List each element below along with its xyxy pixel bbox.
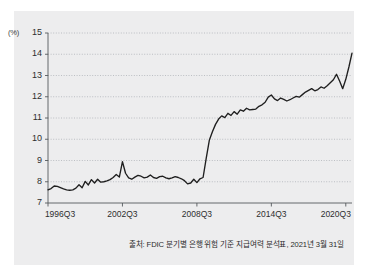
line-chart: [14, 11, 354, 265]
figure-container: (%) 151413121110987 1996Q32002Q32008Q320…: [14, 11, 354, 265]
y-axis-tick-label: 12: [24, 91, 42, 101]
y-axis-tick-label: 9: [24, 155, 42, 165]
x-axis-tick-label: 2014Q3: [256, 209, 286, 219]
y-axis-tick-label: 8: [24, 176, 42, 186]
y-axis-tick-label: 13: [24, 70, 42, 80]
y-axis-tick-label: 11: [24, 112, 42, 122]
y-axis-tick-label: 15: [24, 27, 42, 37]
x-axis-tick-label: 2002Q3: [107, 209, 137, 219]
y-axis-tick-label: 14: [24, 48, 42, 58]
data-series-line: [48, 53, 352, 190]
y-axis-tick-label: 7: [24, 197, 42, 207]
source-note: 출처: FDIC 분기별 은행 위험 기준 지급여력 분석표, 2021년 3월…: [129, 238, 344, 249]
y-axis-unit-label: (%): [8, 28, 19, 37]
x-axis-tick-label: 2008Q3: [182, 209, 212, 219]
x-axis-tick-label: 1996Q3: [45, 209, 75, 219]
y-axis-tick-label: 10: [24, 133, 42, 143]
x-axis-tick-label: 2020Q3: [321, 209, 351, 219]
gridlines: [48, 33, 352, 182]
